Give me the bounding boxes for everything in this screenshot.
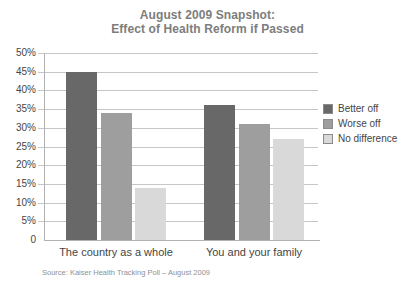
legend-label: Worse off [338, 119, 380, 129]
bar-worse-off [239, 124, 270, 240]
legend-item: Better off [323, 104, 397, 114]
y-tick-label: 45% [0, 66, 36, 78]
y-tick-label: 25% [0, 141, 36, 153]
x-axis-line [44, 240, 320, 241]
bar-worse-off [101, 113, 132, 240]
plot-area [44, 53, 318, 240]
legend-label: Better off [338, 104, 378, 114]
y-tick-label: 50% [0, 47, 36, 59]
bar-better-off [66, 72, 97, 240]
bar-better-off [204, 105, 235, 240]
legend-swatch-icon [323, 104, 333, 114]
bar-no-difference [135, 188, 166, 240]
chart-canvas: August 2009 Snapshot: Effect of Health R… [0, 0, 415, 292]
chart-title-line1: August 2009 Snapshot: [0, 8, 415, 22]
y-tick-label: 40% [0, 84, 36, 96]
y-tick-label: 30% [0, 122, 36, 134]
legend: Better offWorse offNo difference [323, 104, 397, 149]
y-tick-label: 35% [0, 103, 36, 115]
legend-label: No difference [338, 134, 397, 144]
y-tick-label: 0 [0, 234, 36, 246]
legend-swatch-icon [323, 134, 333, 144]
bar-no-difference [273, 139, 304, 240]
y-tick-label: 10% [0, 197, 36, 209]
source-note: Source: Kaiser Health Tracking Poll – Au… [42, 268, 210, 277]
category-label: The country as a whole [59, 246, 173, 258]
chart-title-line2: Effect of Health Reform if Passed [0, 22, 415, 36]
y-tick-label: 20% [0, 159, 36, 171]
legend-item: No difference [323, 134, 397, 144]
legend-item: Worse off [323, 119, 397, 129]
y-tick-label: 5% [0, 215, 36, 227]
legend-swatch-icon [323, 119, 333, 129]
category-label: You and your family [206, 246, 302, 258]
y-tick-label: 15% [0, 178, 36, 190]
chart-title: August 2009 Snapshot: Effect of Health R… [0, 8, 415, 36]
